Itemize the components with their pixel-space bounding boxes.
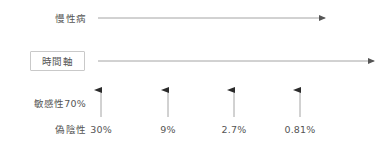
- tick-arrow-group: [101, 90, 300, 117]
- tick-value-label: 9%: [160, 124, 175, 135]
- tick-value-label: 30%: [90, 124, 112, 135]
- tick-value-label: 0.81%: [284, 124, 315, 135]
- timeline-diagram: 慢性病 時間軸 敏感性70% 偽陰性 30%9%2.7%0.81%: [0, 0, 388, 150]
- arrows-layer: [0, 0, 388, 150]
- tick-value-label: 2.7%: [222, 124, 247, 135]
